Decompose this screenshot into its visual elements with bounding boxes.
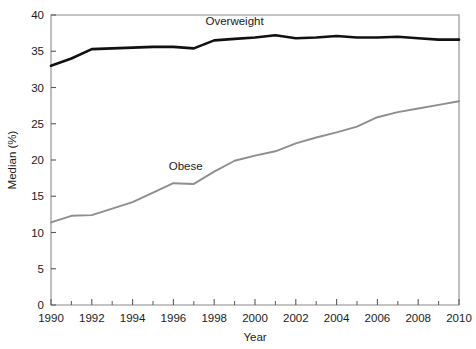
series-layer [51,35,459,222]
chart-container: 0510152025303540 19901992199419961998200… [0,0,476,349]
x-tick-label-2008: 2008 [405,312,431,324]
axis-frame [51,15,459,305]
series-label-obese: Obese [169,160,203,172]
x-tick-label-1996: 1996 [161,312,187,324]
line-chart: 0510152025303540 19901992199419961998200… [0,0,476,349]
y-axis-tick-labels: 0510152025303540 [31,9,44,311]
x-tick-label-1998: 1998 [201,312,227,324]
y-tick-label-25: 25 [31,118,44,130]
series-line-obese [51,101,459,222]
y-tick-label-30: 30 [31,82,44,94]
y-tick-label-0: 0 [38,299,44,311]
y-axis-title: Median (%) [6,130,18,189]
x-axis-title: Year [243,331,266,343]
plot-frame [51,15,459,305]
x-tick-label-1994: 1994 [120,312,146,324]
x-tick-label-2002: 2002 [283,312,309,324]
x-tick-label-2004: 2004 [324,312,350,324]
x-tick-label-2006: 2006 [365,312,391,324]
series-label-overweight: Overweight [206,15,265,27]
y-tick-label-10: 10 [31,227,44,239]
y-tick-label-35: 35 [31,45,44,57]
y-tick-label-15: 15 [31,190,44,202]
y-tick-label-40: 40 [31,9,44,21]
series-line-overweight [51,35,459,65]
y-axis-ticks [51,15,56,305]
y-tick-label-20: 20 [31,154,44,166]
x-tick-label-2000: 2000 [242,312,268,324]
x-tick-label-2010: 2010 [446,312,472,324]
x-tick-label-1990: 1990 [38,312,64,324]
x-tick-label-1992: 1992 [79,312,105,324]
y-tick-label-5: 5 [38,263,44,275]
x-axis-tick-labels: 1990199219941996199820002002200420062008… [38,312,472,324]
